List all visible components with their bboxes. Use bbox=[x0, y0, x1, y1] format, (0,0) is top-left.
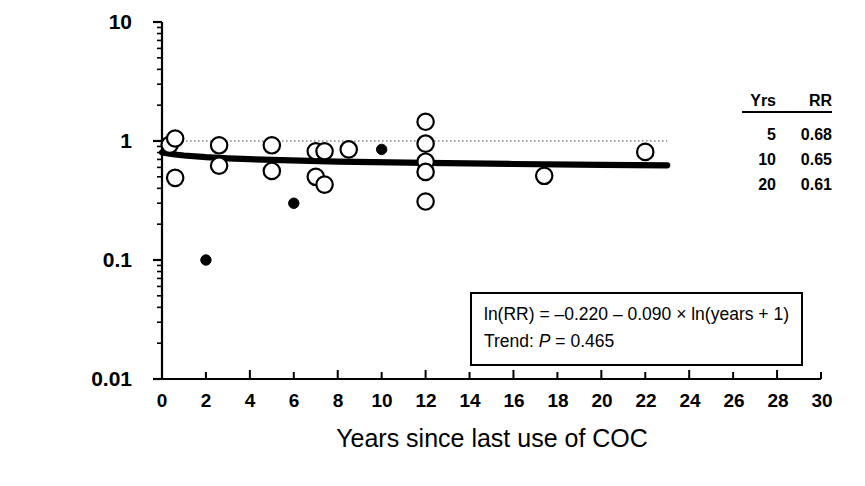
data-point-open bbox=[637, 144, 653, 160]
chart-figure: Relative risk 10 1 0.1 0.01 0 2 4 6 8 10… bbox=[0, 0, 865, 486]
equation-line: ln(RR) = –0.220 – 0.090 × ln(years + 1) bbox=[484, 301, 789, 328]
data-point-open bbox=[341, 141, 357, 157]
legend-header-yrs: Yrs bbox=[742, 92, 776, 112]
trend-prefix: Trend: bbox=[484, 331, 539, 351]
legend-row: 10 0.65 bbox=[742, 144, 832, 169]
legend-grid: Yrs RR 5 0.68 10 0.65 20 0.61 bbox=[742, 92, 832, 194]
equation-box: ln(RR) = –0.220 – 0.090 × ln(years + 1) … bbox=[470, 292, 803, 366]
data-point-open bbox=[167, 170, 183, 186]
legend-row: 20 0.61 bbox=[742, 169, 832, 194]
legend-header-rr: RR bbox=[776, 92, 832, 112]
legend-cell-yrs: 10 bbox=[742, 144, 776, 169]
data-point-open bbox=[417, 164, 433, 180]
data-point-open bbox=[417, 193, 433, 209]
data-point-open bbox=[316, 176, 332, 192]
legend-cell-rr: 0.61 bbox=[776, 169, 832, 194]
data-point-open bbox=[211, 137, 227, 153]
data-point-open bbox=[211, 158, 227, 174]
data-point-filled bbox=[376, 144, 386, 154]
legend-row: 5 0.68 bbox=[742, 112, 832, 144]
legend-header-row: Yrs RR bbox=[742, 92, 832, 112]
legend-cell-yrs: 5 bbox=[742, 112, 776, 144]
trend-line bbox=[162, 152, 667, 165]
legend-table: Yrs RR 5 0.68 10 0.65 20 0.61 bbox=[742, 92, 832, 194]
trend-line-text: Trend: P = 0.465 bbox=[484, 328, 789, 355]
plot-area bbox=[0, 0, 865, 486]
data-point-filled bbox=[289, 198, 299, 208]
legend-cell-yrs: 20 bbox=[742, 169, 776, 194]
data-point-open bbox=[264, 137, 280, 153]
legend-cell-rr: 0.65 bbox=[776, 144, 832, 169]
trend-p-value: = 0.465 bbox=[550, 331, 614, 351]
data-point-open bbox=[167, 130, 183, 146]
data-point-filled bbox=[201, 255, 211, 265]
data-point-open bbox=[264, 163, 280, 179]
legend-cell-rr: 0.68 bbox=[776, 112, 832, 144]
trend-p-symbol: P bbox=[539, 331, 551, 351]
data-point-open bbox=[316, 143, 332, 159]
data-point-open bbox=[536, 168, 552, 184]
data-point-open bbox=[417, 114, 433, 130]
data-point-open bbox=[417, 135, 433, 151]
